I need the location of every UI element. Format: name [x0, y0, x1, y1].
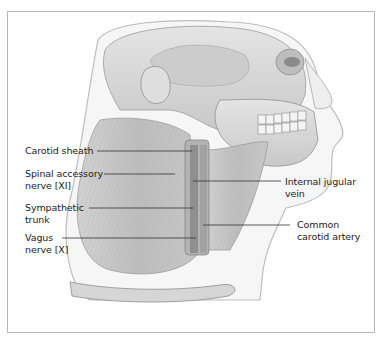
label-line: Spinal accessory: [25, 168, 103, 180]
label-vagus-nerve: Vagus nerve [X]: [25, 232, 68, 256]
label-line: trunk: [25, 214, 84, 226]
label-internal-jugular-vein: Internal jugular vein: [285, 176, 356, 200]
label-line: Internal jugular: [285, 176, 356, 188]
label-line: Carotid sheath: [25, 145, 93, 157]
label-line: nerve [XI]: [25, 180, 103, 192]
label-line: Common: [297, 219, 360, 231]
label-line: Vagus: [25, 232, 68, 244]
label-common-carotid-artery: Common carotid artery: [297, 219, 360, 243]
label-sympathetic-trunk: Sympathetic trunk: [25, 202, 84, 226]
label-line: carotid artery: [297, 231, 360, 243]
label-spinal-accessory-nerve: Spinal accessory nerve [XI]: [25, 168, 103, 192]
label-line: vein: [285, 188, 356, 200]
label-carotid-sheath: Carotid sheath: [25, 145, 93, 157]
label-line: nerve [X]: [25, 244, 68, 256]
label-line: Sympathetic: [25, 202, 84, 214]
